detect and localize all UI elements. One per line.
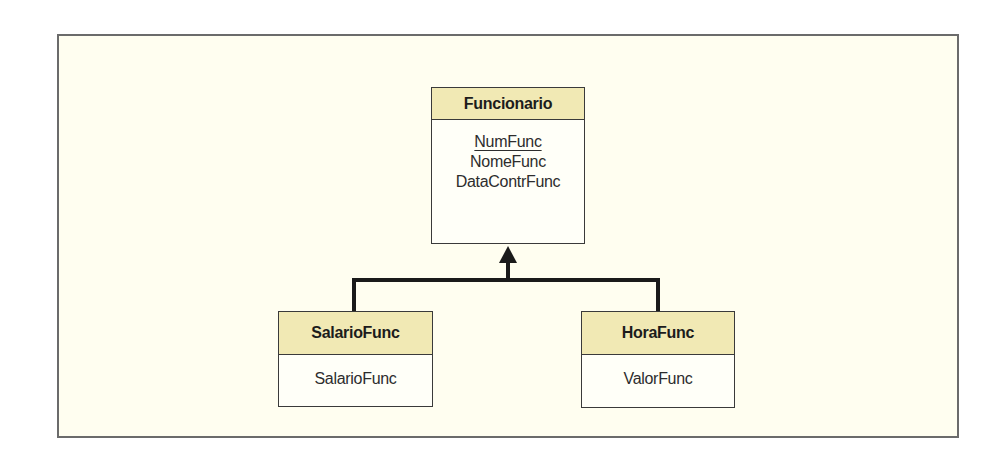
class-header: SalarioFunc	[279, 312, 432, 355]
class-salariofunc[interactable]: SalarioFunc SalarioFunc	[278, 311, 433, 407]
attribute-list: SalarioFunc	[279, 355, 432, 389]
class-funcionario[interactable]: Funcionario NumFunc NomeFunc DataContrFu…	[431, 87, 585, 244]
class-name: SalarioFunc	[311, 324, 399, 342]
attribute: NomeFunc	[470, 152, 546, 172]
class-header: Funcionario	[432, 88, 584, 120]
attribute-list: NumFunc NomeFunc DataContrFunc	[432, 120, 584, 192]
attribute: ValorFunc	[623, 369, 692, 389]
attribute-primary-key: NumFunc	[474, 132, 541, 152]
class-name: HoraFunc	[622, 324, 694, 342]
inheritance-arrow-icon	[499, 246, 517, 263]
class-horafunc[interactable]: HoraFunc ValorFunc	[581, 311, 735, 408]
class-header: HoraFunc	[582, 312, 734, 355]
attribute: SalarioFunc	[314, 369, 396, 389]
class-name: Funcionario	[464, 95, 552, 113]
attribute: DataContrFunc	[456, 172, 561, 192]
attribute-list: ValorFunc	[582, 355, 734, 389]
